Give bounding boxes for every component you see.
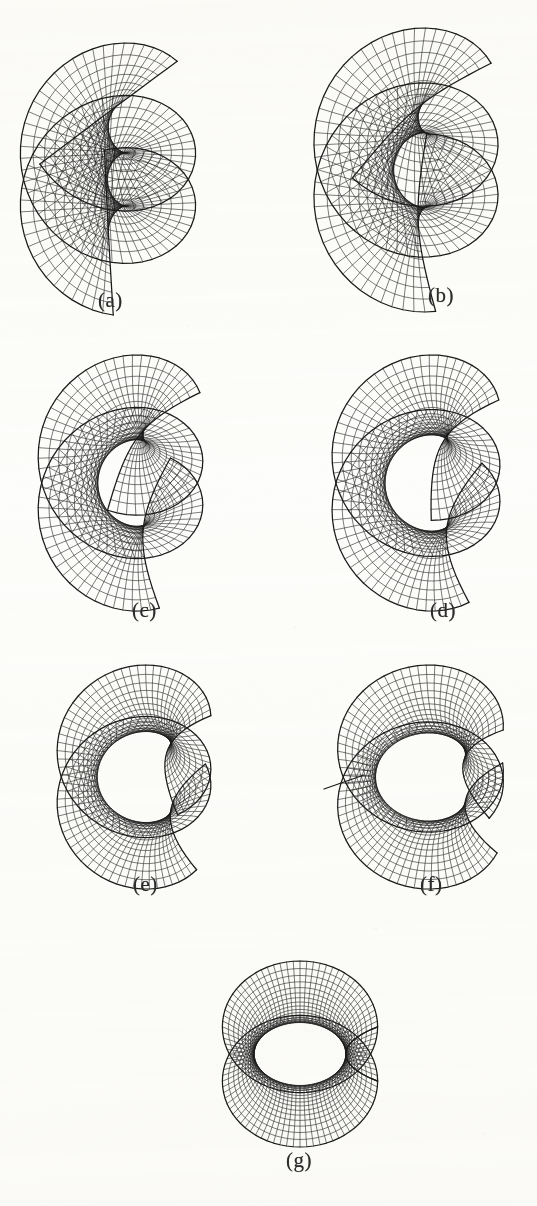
surface-mesh-c — [18, 352, 223, 614]
panel-a — [8, 40, 208, 318]
surface-mesh-d — [312, 352, 520, 614]
panel-e — [30, 662, 238, 892]
panel-label-b: (b) — [428, 283, 454, 308]
surface-mesh-f — [318, 662, 523, 892]
panel-c — [18, 352, 223, 614]
panel-f — [318, 662, 523, 892]
surface-mesh-e — [30, 662, 238, 892]
panel-label-e: (e) — [133, 872, 158, 897]
panel-label-c: (c) — [132, 598, 157, 623]
figure-page: (a) (b) (c) (d) (e) (f) (g) — [0, 0, 537, 1206]
panel-g — [198, 958, 402, 1150]
surface-mesh-g — [198, 958, 402, 1150]
panel-label-d: (d) — [430, 598, 456, 623]
panel-label-f: (f) — [420, 872, 442, 897]
panel-label-g: (g) — [286, 1148, 312, 1173]
surface-mesh-a — [8, 40, 208, 318]
panel-label-a: (a) — [98, 288, 123, 313]
panel-d — [312, 352, 520, 614]
panel-b — [300, 25, 512, 315]
surface-mesh-b — [300, 25, 512, 315]
